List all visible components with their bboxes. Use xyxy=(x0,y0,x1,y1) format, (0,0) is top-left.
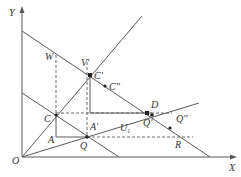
label-q1: Q' xyxy=(143,117,153,128)
x-axis-arrow-icon xyxy=(230,155,237,160)
point-c1 xyxy=(88,73,92,77)
label-v1: V' xyxy=(81,57,90,68)
point-q2 xyxy=(168,126,171,129)
label-c1: C' xyxy=(94,70,104,81)
lower-budget-line xyxy=(22,93,119,157)
y-axis-arrow-icon xyxy=(20,6,25,13)
label-a1: A' xyxy=(89,121,99,132)
label-q: Q xyxy=(80,140,88,151)
geometry-diagram: Y X O W V' C' C'' C A' D Q' Q'' U1 A Q R xyxy=(0,0,241,177)
label-u1: U1 xyxy=(120,122,130,134)
label-y: Y xyxy=(9,7,16,18)
label-c2: C'' xyxy=(109,81,121,92)
point-d xyxy=(145,111,149,115)
label-d: D xyxy=(150,99,159,110)
label-o: O xyxy=(12,155,19,166)
point-c2 xyxy=(103,84,106,87)
point-q xyxy=(85,135,89,139)
label-x: X xyxy=(228,162,236,173)
label-a: A xyxy=(47,134,55,145)
label-r: R xyxy=(174,139,181,150)
point-c xyxy=(54,113,57,116)
label-q2: Q'' xyxy=(176,113,188,124)
ray-oc xyxy=(22,16,142,157)
label-c: C xyxy=(44,113,51,124)
